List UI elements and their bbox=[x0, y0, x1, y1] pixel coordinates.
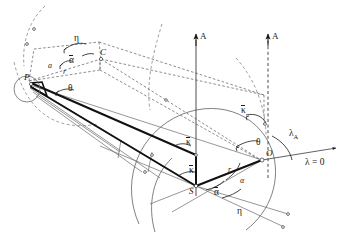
node-P bbox=[29, 82, 32, 85]
node-S bbox=[194, 184, 197, 187]
eta-label-bottom: η bbox=[237, 207, 242, 217]
lambda-A-subscript: A bbox=[294, 133, 299, 140]
thin-left-rail bbox=[33, 92, 120, 152]
alpha-bar-label-bottom: α bbox=[214, 188, 219, 198]
lambda-zero-label: λ = 0 bbox=[305, 158, 324, 168]
node-O bbox=[260, 158, 264, 162]
kappa-bar-label-mid: κ bbox=[186, 138, 191, 148]
kappa-bar-label-lower: κ bbox=[189, 166, 194, 176]
r-label-bottom: r bbox=[228, 166, 231, 174]
arc-right-upper bbox=[236, 58, 266, 136]
thin-lower-left-edge bbox=[30, 88, 160, 178]
node-topcorner bbox=[195, 154, 198, 157]
diagram-svg bbox=[0, 0, 345, 250]
dash-C-to-right bbox=[101, 59, 264, 95]
theta-label-left: θ bbox=[68, 84, 73, 94]
kappa-bar-glyph-upper: κ bbox=[241, 106, 246, 116]
lambda-A-label: λA bbox=[289, 129, 298, 140]
solid-arcs bbox=[132, 108, 276, 232]
thin-frame-lines bbox=[30, 85, 288, 226]
theta-label-right: θ bbox=[256, 138, 261, 148]
node-rail-a bbox=[151, 154, 154, 157]
kappa-bar-glyph-mid: κ bbox=[186, 138, 191, 148]
axis-label-A-solid: A bbox=[200, 32, 207, 41]
kappa-bar-glyph-lower: κ bbox=[189, 166, 194, 176]
kappa-bar-label-upper: κ bbox=[241, 106, 246, 116]
alpha-bar-glyph-top: α bbox=[69, 56, 74, 66]
angle-arcs bbox=[56, 43, 292, 198]
upper-dashed-frame bbox=[29, 42, 264, 161]
node-rail-b bbox=[144, 171, 147, 174]
thick-P-to-S bbox=[31, 87, 196, 186]
node-topleft-a bbox=[33, 28, 36, 31]
node-C bbox=[99, 57, 102, 60]
arc-eta-top bbox=[64, 43, 86, 50]
figure-canvas: P C S O A A λ = 0 λA η η a α α α r r θ θ… bbox=[0, 0, 345, 250]
alpha-label-left: a bbox=[48, 62, 52, 70]
dash-C-to-O bbox=[101, 59, 261, 160]
point-label-O: O bbox=[266, 149, 273, 158]
node-right-dash bbox=[264, 123, 267, 126]
construction-arcs bbox=[14, 6, 266, 136]
alpha-bar-label-top: α bbox=[69, 56, 74, 66]
node-lower-b bbox=[282, 226, 285, 229]
arc-upper-left bbox=[24, 6, 45, 66]
alpha-bar-glyph-bottom: α bbox=[214, 188, 219, 198]
point-label-P: P bbox=[24, 73, 30, 82]
thin-P-to-O bbox=[30, 85, 262, 160]
node-markers bbox=[26, 28, 290, 229]
eta-label-top: η bbox=[74, 34, 79, 44]
arc-mid-dashed bbox=[149, 24, 162, 110]
thin-S-to-lowerright bbox=[196, 186, 288, 214]
dash-topleft-to-right bbox=[99, 42, 264, 95]
sphere-arc-main bbox=[132, 108, 276, 230]
node-right-edge bbox=[165, 99, 168, 102]
r-label-top: r bbox=[63, 68, 66, 76]
alpha-label-right: α bbox=[240, 177, 244, 185]
axis-label-A-dashed: A bbox=[272, 32, 279, 41]
point-label-C: C bbox=[100, 48, 106, 57]
node-lower-a bbox=[287, 213, 290, 216]
point-label-S: S bbox=[189, 187, 194, 196]
arc-alphabar-top bbox=[82, 54, 94, 56]
node-topleft-b bbox=[26, 43, 29, 46]
